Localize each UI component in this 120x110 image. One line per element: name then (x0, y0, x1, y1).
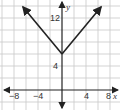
y-tick-12: 12 (50, 13, 60, 23)
tick-labels: −8 −4 4 8 4 12 x y (9, 2, 117, 101)
x-tick-8: 8 (106, 91, 111, 101)
y-tick-4: 4 (53, 61, 58, 71)
x-tick-neg4: −4 (33, 91, 43, 101)
coordinate-plane: −8 −4 4 8 4 12 x y (0, 0, 120, 110)
y-axis-label: y (65, 2, 70, 12)
x-axis-label: x (112, 91, 117, 101)
x-tick-4: 4 (84, 91, 89, 101)
right-ray (62, 7, 101, 54)
x-tick-neg8: −8 (9, 91, 19, 101)
